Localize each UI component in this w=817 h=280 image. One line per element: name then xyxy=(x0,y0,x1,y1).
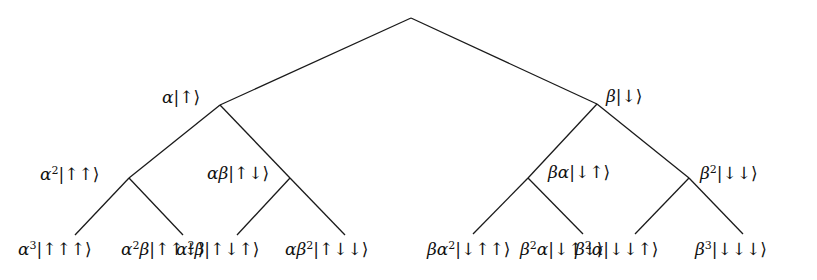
ket: |↓↑↑⟩ xyxy=(455,239,510,259)
coefficient-beta: β xyxy=(139,239,149,259)
node-label-baa: βα2|↓↑↑⟩ xyxy=(427,240,510,258)
node-label-ab: αβ|↑↓⟩ xyxy=(207,165,269,182)
coefficient-alpha: α xyxy=(40,164,51,184)
ket: |↑↓⟩ xyxy=(228,163,269,183)
ket: |↑↓↑⟩ xyxy=(204,239,259,259)
node-label-aaa: α3|↑↑↑⟩ xyxy=(18,240,92,258)
node-label-abb: αβ2|↑↓↓⟩ xyxy=(285,240,368,258)
ket: |↑↑↑⟩ xyxy=(36,239,91,259)
node-label-bbb: β3|↓↓↓⟩ xyxy=(695,240,767,258)
edge-ab-abb xyxy=(290,178,345,235)
coefficient-beta: β xyxy=(548,162,558,182)
coefficient-beta: β xyxy=(606,86,616,106)
node-label-b: β|↓⟩ xyxy=(606,88,642,105)
coefficient-alpha: α xyxy=(162,87,173,107)
edge-root-a xyxy=(220,18,411,105)
coefficient-beta: β xyxy=(695,239,705,259)
coefficient-alpha: α xyxy=(558,162,569,182)
exponent: 2 xyxy=(585,239,592,252)
coefficient-beta: β xyxy=(218,163,228,183)
ket: |↓↑⟩ xyxy=(569,162,610,182)
edge-aa-aab xyxy=(129,178,183,235)
coefficient-beta: β xyxy=(520,239,530,259)
edge-root-b xyxy=(411,18,597,104)
coefficient-beta: β xyxy=(194,239,204,259)
edge-bb-bba xyxy=(635,178,689,234)
coefficient-alpha: α xyxy=(285,239,296,259)
exponent: 3 xyxy=(705,239,712,252)
edge-ba-baa xyxy=(473,178,528,234)
ket: |↓⟩ xyxy=(616,86,643,106)
ket: |↓↓↑⟩ xyxy=(603,239,658,259)
coefficient-alpha: α xyxy=(176,239,187,259)
coefficient-beta: β xyxy=(296,239,306,259)
coefficient-alpha: α xyxy=(207,163,218,183)
coefficient-alpha: α xyxy=(18,239,29,259)
node-label-bba: β2α|↓↓↑⟩ xyxy=(575,240,658,258)
coefficient-alpha: α xyxy=(537,239,548,259)
probability-tree xyxy=(0,0,817,280)
edge-ab-aba xyxy=(237,178,290,235)
ket: |↓↓↓⟩ xyxy=(712,239,767,259)
coefficient-alpha: α xyxy=(437,239,448,259)
ket: |↑⟩ xyxy=(173,87,200,107)
ket: |↑↑⟩ xyxy=(58,164,99,184)
exponent: 2 xyxy=(710,163,717,176)
ket: |↓↓⟩ xyxy=(717,163,758,183)
node-label-aa: α2|↑↑⟩ xyxy=(40,165,99,183)
coefficient-beta: β xyxy=(700,163,710,183)
coefficient-beta: β xyxy=(427,239,437,259)
coefficient-alpha: α xyxy=(121,239,132,259)
exponent: 2 xyxy=(530,239,537,252)
edge-aa-aaa xyxy=(75,178,129,235)
edge-ba-bab xyxy=(528,178,583,234)
node-label-a: α|↑⟩ xyxy=(162,89,200,106)
edge-bb-bbb xyxy=(689,178,743,234)
coefficient-beta: β xyxy=(575,239,585,259)
node-label-ba: βα|↓↑⟩ xyxy=(548,164,610,181)
ket: |↑↓↓⟩ xyxy=(313,239,368,259)
node-label-aba: α2β|↑↓↑⟩ xyxy=(176,240,259,258)
coefficient-alpha: α xyxy=(592,239,603,259)
edge-b-bb xyxy=(597,104,689,178)
node-label-bb: β2|↓↓⟩ xyxy=(700,164,758,182)
